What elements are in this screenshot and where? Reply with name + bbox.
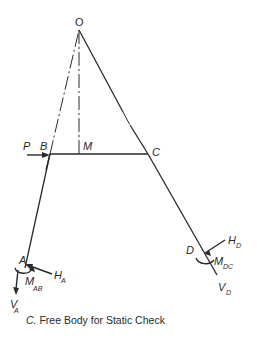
construction-line-B-O: [50, 30, 79, 154]
label-P: P: [23, 140, 31, 152]
label-O: O: [75, 16, 84, 28]
label-VA-sub: A: [13, 307, 19, 314]
member-CD: [148, 154, 217, 275]
label-C: C: [152, 146, 160, 158]
label-D: D: [186, 244, 194, 256]
label-B: B: [40, 140, 47, 152]
member-B-extension: [46, 154, 50, 170]
construction-line-O-C-lower: [130, 125, 148, 154]
label-HD-main: H: [228, 234, 236, 246]
construction-line-O-C-dash: [123, 112, 130, 125]
construction-line-O-C-solid: [79, 30, 123, 112]
figure-caption: C. Free Body for Static Check: [26, 314, 166, 326]
label-VD-sub: D: [226, 289, 231, 296]
free-body-diagram: O B M C A D P H A M AB V A H D M DC V D …: [0, 0, 257, 338]
moment-MDC-arc-icon: [196, 258, 214, 264]
label-MDC-sub: DC: [223, 263, 234, 270]
label-HA-sub: A: [60, 277, 66, 284]
caption-text: Free Body for Static Check: [37, 314, 166, 326]
label-MAB-sub: AB: [32, 285, 43, 292]
label-A: A: [18, 254, 26, 266]
label-M: M: [83, 140, 93, 152]
label-HD-sub: D: [236, 242, 241, 249]
member-AB: [25, 154, 50, 268]
reaction-VA-shaft: [16, 270, 18, 289]
caption-prefix: C.: [26, 314, 37, 326]
reaction-VA-arrowhead-icon: [13, 287, 19, 295]
